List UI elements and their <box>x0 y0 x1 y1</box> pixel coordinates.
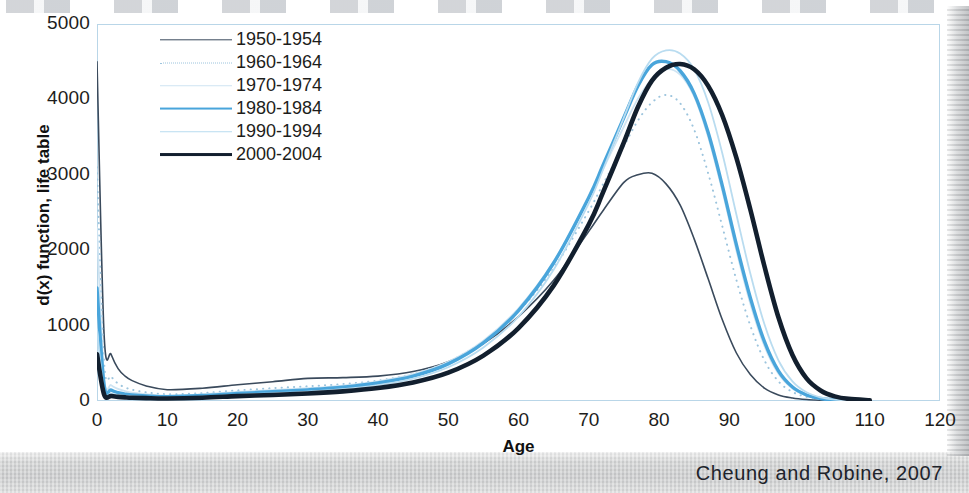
x-tick-label: 110 <box>840 409 900 431</box>
x-tick-label: 30 <box>278 409 338 431</box>
legend-item-label: 2000-2004 <box>232 144 322 165</box>
y-tick-label: 0 <box>4 389 90 411</box>
x-axis-title: Age <box>97 437 940 457</box>
y-axis-title: d(x) function, life table <box>34 90 54 340</box>
legend-item[interactable]: 2000-2004 <box>160 143 380 166</box>
x-tick-label: 0 <box>67 409 127 431</box>
legend-item-label: 1970-1974 <box>232 75 322 96</box>
legend-item-label: 1990-1994 <box>232 121 322 142</box>
legend-line-swatch-icon <box>160 102 232 116</box>
legend-line-swatch-icon <box>160 79 232 93</box>
legend-line-swatch-icon <box>160 56 232 70</box>
x-tick-label: 90 <box>699 409 759 431</box>
x-tick-label: 40 <box>348 409 408 431</box>
legend-item-label: 1980-1984 <box>232 98 322 119</box>
legend-item[interactable]: 1980-1984 <box>160 97 380 120</box>
legend-line-swatch-icon <box>160 125 232 139</box>
x-tick-label: 100 <box>770 409 830 431</box>
legend-item-label: 1960-1964 <box>232 52 322 73</box>
legend-item[interactable]: 1990-1994 <box>160 120 380 143</box>
legend-item[interactable]: 1970-1974 <box>160 74 380 97</box>
x-tick-label: 60 <box>489 409 549 431</box>
x-tick-label: 70 <box>559 409 619 431</box>
scan-artifact-right-edge <box>947 6 969 456</box>
legend-line-swatch-icon <box>160 148 232 162</box>
chart-legend: 1950-19541960-19641970-19741980-19841990… <box>160 28 380 166</box>
x-axis-tick-labels: 0102030405060708090100110120 <box>0 409 969 435</box>
scan-artifact-top <box>0 0 969 13</box>
y-tick-label: 5000 <box>4 12 90 34</box>
x-tick-label: 120 <box>910 409 969 431</box>
x-tick-label: 20 <box>208 409 268 431</box>
legend-item[interactable]: 1960-1964 <box>160 51 380 74</box>
legend-item-label: 1950-1954 <box>232 29 322 50</box>
legend-line-swatch-icon <box>160 33 232 47</box>
x-tick-label: 80 <box>629 409 689 431</box>
legend-item[interactable]: 1950-1954 <box>160 28 380 51</box>
chart-screenshot: 010002000300040005000 010203040506070809… <box>0 0 969 493</box>
x-tick-label: 50 <box>418 409 478 431</box>
x-tick-label: 10 <box>137 409 197 431</box>
source-citation: Cheung and Robine, 2007 <box>696 462 943 485</box>
